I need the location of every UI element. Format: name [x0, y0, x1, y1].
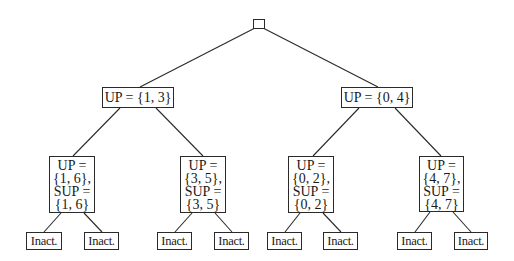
tree-root-node — [253, 19, 265, 29]
leaf-inactive: Inact. — [157, 232, 192, 250]
leaf-inactive: Inact. — [84, 232, 119, 250]
edge-l1a-l2a — [73, 108, 120, 156]
tree-node-up-sup-4-7: UP = {4, 7}, SUP = {4, 7} — [419, 156, 464, 212]
tree-node-up-sup-0-2: UP = {0, 2}, SUP = {0, 2} — [288, 156, 334, 213]
tree-node-up-sup-1-6: UP = {1, 6}, SUP = {1, 6} — [49, 156, 95, 213]
node-label: UP = {0, 4} — [344, 92, 411, 104]
leaf-inactive: Inact. — [26, 232, 62, 250]
leaf-inactive: Inact. — [214, 232, 249, 250]
tree-node-up-0-4: UP = {0, 4} — [341, 87, 413, 108]
leaf-inactive: Inact. — [267, 232, 302, 250]
node-label: UP = {1, 3} — [105, 92, 172, 104]
leaf-inactive: Inact. — [454, 232, 488, 250]
leaf-inactive: Inact. — [323, 232, 358, 250]
leaf-inactive: Inact. — [397, 232, 432, 250]
edge-root-left — [140, 28, 255, 87]
tree-node-up-sup-3-5: UP = {3, 5}, SUP = {3, 5} — [180, 156, 226, 213]
edge-l1b-l2c — [313, 108, 359, 156]
tree-node-up-1-3: UP = {1, 3} — [102, 87, 174, 108]
edge-root-right — [263, 28, 378, 87]
edge-l1b-l2d — [395, 108, 441, 156]
tree-edges — [0, 0, 514, 261]
edge-l1a-l2b — [156, 108, 203, 156]
